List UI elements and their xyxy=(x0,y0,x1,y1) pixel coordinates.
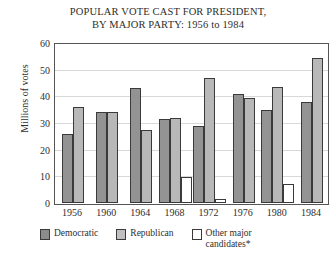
x-axis-tick-1960: 1960 xyxy=(96,207,116,219)
x-axis-tick-1980: 1980 xyxy=(267,207,287,219)
x-axis-tick-1968: 1968 xyxy=(164,207,184,219)
bar-1984-democratic[interactable] xyxy=(301,102,312,203)
y-axis-tick-labels: 0102030405060 xyxy=(26,43,50,205)
y-axis-tick-60: 60 xyxy=(26,39,50,49)
bar-group-1968 xyxy=(158,45,192,203)
bars-layer xyxy=(56,45,327,203)
chart-title-line-1: POPULAR VOTE CAST FOR PRESIDENT, xyxy=(0,5,336,18)
bar-1972-other-major-candidates[interactable] xyxy=(215,199,226,203)
bar-1980-other-major-candidates[interactable] xyxy=(283,184,294,203)
bar-1976-republican[interactable] xyxy=(244,98,255,203)
bar-1968-other-major-candidates[interactable] xyxy=(181,177,192,203)
bar-group-1956 xyxy=(56,45,90,203)
plot-area xyxy=(54,43,329,205)
bar-1964-republican[interactable] xyxy=(141,130,152,203)
bar-1980-republican[interactable] xyxy=(272,87,283,203)
bar-group-1984 xyxy=(295,45,329,203)
x-axis-tick-1964: 1964 xyxy=(130,207,150,219)
bar-1984-republican[interactable] xyxy=(312,58,323,203)
legend-swatch-democratic xyxy=(40,229,50,240)
y-axis-tick-10: 10 xyxy=(26,172,50,182)
x-axis-tick-1956: 1956 xyxy=(62,207,82,219)
bar-1964-democratic[interactable] xyxy=(130,88,141,203)
legend-label-other: Other major candidates* xyxy=(206,228,280,250)
bar-group-1972 xyxy=(193,45,227,203)
legend-label-republican: Republican xyxy=(130,228,173,239)
legend-item-other[interactable]: Other major candidates* xyxy=(192,228,280,250)
bar-1956-republican[interactable] xyxy=(73,107,84,203)
bar-1960-republican[interactable] xyxy=(107,112,118,203)
y-axis-tick-0: 0 xyxy=(26,199,50,209)
chart-title: POPULAR VOTE CAST FOR PRESIDENT, BY MAJO… xyxy=(0,5,336,31)
legend-swatch-republican xyxy=(116,229,126,240)
chart-title-line-2: BY MAJOR PARTY: 1956 to 1984 xyxy=(0,18,336,31)
x-axis-tick-labels: 19561960196419681972197619801984 xyxy=(54,207,329,221)
bar-1956-democratic[interactable] xyxy=(62,134,73,203)
bar-1980-democratic[interactable] xyxy=(261,110,272,203)
bar-1972-democratic[interactable] xyxy=(193,126,204,203)
chart-legend: DemocraticRepublicanOther major candidat… xyxy=(40,228,330,250)
bar-group-1960 xyxy=(90,45,124,203)
legend-label-democratic: Democratic xyxy=(54,228,98,239)
bar-1972-republican[interactable] xyxy=(204,78,215,203)
bar-1968-republican[interactable] xyxy=(170,118,181,203)
y-axis-tick-20: 20 xyxy=(26,146,50,156)
bar-group-1976 xyxy=(227,45,261,203)
x-axis-tick-1984: 1984 xyxy=(301,207,321,219)
legend-swatch-other xyxy=(192,229,202,240)
bar-group-1964 xyxy=(124,45,158,203)
y-axis-tick-50: 50 xyxy=(26,66,50,76)
x-axis-tick-1972: 1972 xyxy=(199,207,219,219)
bar-1960-democratic[interactable] xyxy=(96,112,107,203)
bar-group-1980 xyxy=(261,45,295,203)
x-axis-tick-1976: 1976 xyxy=(233,207,253,219)
y-axis-tick-30: 30 xyxy=(26,119,50,129)
bar-1968-democratic[interactable] xyxy=(159,119,170,203)
bar-1976-democratic[interactable] xyxy=(233,94,244,203)
legend-item-democratic[interactable]: Democratic xyxy=(40,228,98,240)
y-axis-tick-40: 40 xyxy=(26,92,50,102)
legend-item-republican[interactable]: Republican xyxy=(116,228,173,240)
